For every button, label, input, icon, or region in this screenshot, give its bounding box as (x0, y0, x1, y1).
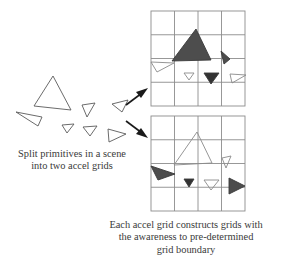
caption-right-line2: the awareness to pre-determined (88, 231, 284, 243)
arrow-to-bottom-grid (126, 121, 148, 138)
scene-triangle-far-right (112, 100, 128, 112)
grid1-triangle-open-left (151, 62, 174, 72)
grid2-triangle-open-large (174, 132, 212, 165)
caption-left-line1: Split primitives in a scene (2, 148, 142, 160)
grid1-triangle-open-tiny (184, 73, 194, 80)
scene-triangle-large (34, 76, 71, 110)
grid2-triangle-open-down (204, 180, 219, 190)
arrow-to-top-grid (126, 88, 148, 105)
scene-triangle-small-right (82, 103, 95, 117)
caption-left-line2: into two accel grids (2, 160, 142, 172)
arrows-group (126, 88, 148, 138)
scene-primitives-group (16, 76, 128, 142)
top-accel-grid[interactable] (151, 11, 246, 106)
grid1-triangle-small-dark-right (221, 51, 230, 64)
grid1-triangle-open-right (230, 74, 246, 83)
caption-right: Each accel grid constructs grids with th… (88, 219, 284, 256)
grid1-triangle-big-dark (172, 29, 211, 61)
top-grid-primitives (151, 29, 246, 84)
caption-right-line3: grid boundary (88, 244, 284, 256)
bottom-accel-grid[interactable] (151, 116, 245, 211)
grid2-triangle-dark-left (151, 166, 175, 180)
scene-triangle-left-thin (16, 112, 42, 126)
grid2-triangle-dark-tiny (184, 179, 194, 187)
scene-triangle-small-mid (62, 124, 74, 133)
grid2-triangle-open-small-right (222, 156, 231, 168)
caption-right-line1: Each accel grid constructs grids with (88, 219, 284, 231)
grid2-triangle-dark-right (229, 178, 245, 194)
scene-triangle-small-lower (83, 126, 97, 136)
caption-left: Split primitives in a scene into two acc… (2, 148, 142, 173)
scene-triangle-right-open (108, 129, 126, 142)
